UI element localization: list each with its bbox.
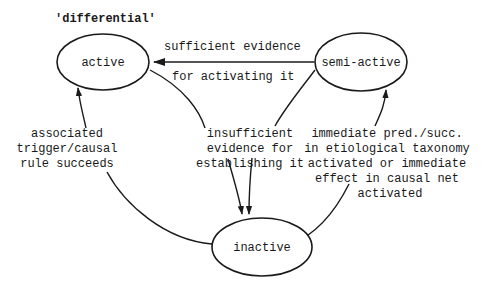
diagram-title: 'differential' <box>55 12 156 26</box>
svg-text:establishing it: establishing it <box>196 157 304 171</box>
state-diagram: 'differential' active semi-active inacti… <box>0 0 489 284</box>
node-active-label: active <box>81 56 124 70</box>
label-inactive-to-active: associated trigger/causal rule succeeds <box>17 127 118 171</box>
svg-text:sufficient evidence: sufficient evidence <box>164 40 301 54</box>
svg-text:activated or immediate: activated or immediate <box>308 157 466 171</box>
svg-text:trigger/causal: trigger/causal <box>17 142 118 156</box>
label-to-inactive: insufficient evidence for establishing i… <box>196 127 304 171</box>
svg-text:rule succeeds: rule succeeds <box>20 157 114 171</box>
svg-text:associated: associated <box>31 127 103 141</box>
node-semi-active: semi-active <box>315 33 407 91</box>
node-inactive-label: inactive <box>233 241 291 255</box>
svg-text:in etiological taxonomy: in etiological taxonomy <box>304 142 470 156</box>
label-inactive-to-semi: immediate pred./succ. in etiological tax… <box>304 127 470 201</box>
node-inactive: inactive <box>212 218 312 276</box>
node-active: active <box>57 34 149 90</box>
svg-text:immediate pred./succ.: immediate pred./succ. <box>311 127 462 141</box>
svg-text:for activating it: for activating it <box>172 70 294 84</box>
svg-text:activated: activated <box>358 187 423 201</box>
svg-text:effect in causal net: effect in causal net <box>315 172 459 186</box>
svg-text:insufficient: insufficient <box>207 127 293 141</box>
node-semi-active-label: semi-active <box>321 56 400 70</box>
svg-text:evidence for: evidence for <box>207 142 293 156</box>
